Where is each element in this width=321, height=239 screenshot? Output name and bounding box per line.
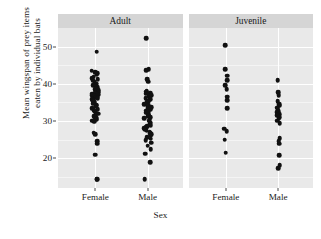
data-point [144, 68, 149, 73]
x-axis-title: Sex [0, 210, 321, 220]
y-axis-tick-label: 40 [43, 79, 52, 89]
gridline-minor [189, 177, 314, 178]
x-axis-tick-mark [95, 188, 96, 191]
data-point [224, 129, 229, 134]
data-point [276, 93, 281, 98]
y-axis-tick-labels: 20304050 [34, 20, 56, 190]
data-point [146, 79, 151, 84]
facet-strip-label: Juvenile [189, 14, 314, 28]
gridline-major [189, 121, 314, 122]
gridline-major [189, 84, 314, 85]
gridline-major [58, 47, 183, 48]
data-point [225, 106, 230, 111]
data-point [223, 150, 228, 155]
plot-area [58, 28, 183, 188]
data-point [275, 78, 280, 83]
data-point [94, 50, 99, 55]
x-axis-tick-label: Male [269, 192, 288, 202]
data-point [144, 36, 149, 41]
data-point [148, 160, 153, 165]
gridline-minor [58, 177, 183, 178]
data-point [277, 121, 282, 126]
x-axis-tick-label: Female [82, 192, 109, 202]
gridline-major [189, 158, 314, 159]
gridline-major [58, 158, 183, 159]
data-point [276, 166, 281, 171]
gridline-major [58, 121, 183, 122]
gridline-major [58, 84, 183, 85]
y-axis-tick-mark [53, 158, 56, 159]
chart-figure: Mean wingspan of prey items eaten by ind… [0, 0, 321, 239]
x-axis-tick-mark [278, 188, 279, 191]
x-axis-tick-label: Male [138, 192, 157, 202]
data-point [225, 98, 230, 103]
data-point [95, 141, 100, 146]
y-axis-title-line-1: Mean wingspan of prey items [21, 7, 33, 119]
x-axis: FemaleMaleFemaleMale [58, 188, 313, 210]
data-point [277, 141, 282, 146]
facet-strip-label: Adult [58, 14, 183, 28]
data-point [225, 87, 230, 92]
facet-panel-adult: Adult [58, 14, 183, 188]
data-point [148, 147, 153, 152]
y-axis-tick-label: 20 [43, 153, 52, 163]
y-axis-tick-mark [53, 121, 56, 122]
gridline-major [189, 47, 314, 48]
x-axis-tick-mark [225, 188, 226, 191]
gridline-minor [189, 65, 314, 66]
data-point [142, 177, 147, 182]
data-point [93, 132, 98, 137]
data-point [143, 138, 148, 143]
data-point [223, 43, 228, 48]
gridline-minor [58, 140, 183, 141]
x-axis-tick-label: Female [212, 192, 239, 202]
gridline-minor [189, 140, 314, 141]
facet-panel-juvenile: Juvenile [189, 14, 314, 188]
data-point [277, 153, 282, 158]
data-point [93, 153, 98, 158]
y-axis-tick-mark [53, 46, 56, 47]
data-point [143, 151, 148, 156]
x-axis-tick-mark [147, 188, 148, 191]
x-axis-panel: FemaleMale [189, 188, 314, 210]
data-point [94, 177, 99, 182]
gridline-minor [58, 102, 183, 103]
data-point [223, 67, 228, 72]
gridline-minor [189, 102, 314, 103]
plot-area [189, 28, 314, 188]
panel-row: AdultJuvenile [58, 14, 313, 188]
data-point [222, 137, 227, 142]
x-axis-panel: FemaleMale [58, 188, 183, 210]
y-axis-tick-label: 50 [43, 42, 52, 52]
y-axis-tick-label: 30 [43, 116, 52, 126]
gridline-minor [58, 65, 183, 66]
y-axis-tick-mark [53, 83, 56, 84]
data-point [92, 119, 97, 124]
